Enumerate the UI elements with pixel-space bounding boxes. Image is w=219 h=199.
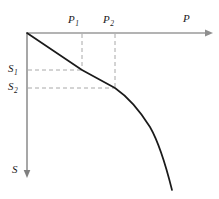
label-s1-subscript: 1 <box>14 68 18 77</box>
y-axis-group <box>24 33 31 178</box>
label-s2: S2 <box>8 81 18 92</box>
label-s1-base: S <box>8 62 14 74</box>
label-p2-subscript: 2 <box>110 19 114 28</box>
label-p1-base: P <box>68 13 75 25</box>
label-p1: P1 <box>68 14 79 25</box>
label-p2: P2 <box>103 14 114 25</box>
entropy-pressure-plot <box>0 0 219 199</box>
entropy-curve <box>27 33 172 190</box>
label-p2-base: P <box>103 13 110 25</box>
label-s-axis-base: S <box>12 163 18 175</box>
label-p-axis-base: P <box>183 12 190 24</box>
label-s2-subscript: 2 <box>14 86 18 95</box>
label-p-axis: P <box>183 13 190 24</box>
label-s-axis: S <box>12 164 18 175</box>
label-s1: S1 <box>8 63 18 74</box>
y-axis-arrowhead <box>24 170 31 178</box>
x-axis-group <box>27 30 213 37</box>
x-axis-arrowhead <box>205 30 213 37</box>
label-s2-base: S <box>8 80 14 92</box>
figure-container: P1 P2 P S1 S2 S <box>0 0 219 199</box>
label-p1-subscript: 1 <box>75 19 79 28</box>
